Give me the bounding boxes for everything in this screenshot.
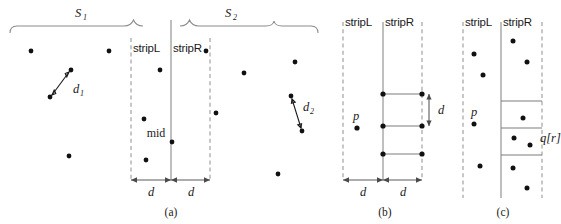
data-point: [242, 71, 247, 76]
data-point: [472, 52, 477, 57]
panel-b-d-left-label: d: [360, 185, 367, 199]
panel-b-d-right-label: d: [400, 185, 407, 199]
panel-b-d-left-measure: [343, 177, 383, 183]
panel-a-d1-label: d: [73, 82, 80, 96]
panel-b-stripL-label: stripL: [345, 16, 373, 28]
panel-a: S 1 S 2 stripL stripR mid: [10, 6, 318, 219]
data-point-p: [472, 122, 477, 127]
data-point: [512, 136, 517, 141]
label-s1-subscript: 1: [83, 13, 87, 22]
panel-b: stripL stripR p d: [343, 16, 445, 219]
panel-c-stripR-label: stripR: [503, 16, 532, 28]
label-s1: S: [75, 6, 82, 20]
data-point: [525, 186, 530, 191]
label-s2-subscript: 2: [233, 13, 237, 22]
data-point: [289, 94, 294, 99]
panel-a-caption: (a): [165, 206, 178, 219]
data-point: [29, 49, 34, 54]
data-point: [170, 140, 175, 145]
panel-c-q-label: q[r]: [540, 131, 561, 145]
panel-c-stripL-label: stripL: [465, 16, 493, 28]
data-point: [380, 91, 385, 96]
data-point: [144, 158, 149, 163]
panel-a-d1-subscript: 1: [80, 89, 84, 98]
data-point: [107, 49, 112, 54]
panel-a-d-left-label: d: [148, 185, 155, 199]
data-point: [521, 116, 526, 121]
panel-a-d2-arrow: [291, 99, 301, 128]
panel-a-d-left-measure: [131, 177, 171, 183]
panel-a-d-right-measure: [171, 177, 210, 183]
panel-b-p-label: p: [352, 109, 359, 123]
data-point-p: [354, 125, 359, 130]
figure-container: S 1 S 2 stripL stripR mid: [0, 0, 561, 224]
data-point: [419, 123, 424, 128]
data-point: [481, 73, 486, 78]
panel-b-d-right-measure: [383, 177, 422, 183]
brace-s2: [180, 20, 318, 33]
data-point: [419, 91, 424, 96]
panel-a-d2-label: d: [303, 100, 310, 114]
panel-a-stripR-label: stripR: [173, 42, 202, 54]
data-point: [511, 166, 516, 171]
data-point: [204, 49, 209, 54]
data-point: [67, 154, 72, 159]
panel-c-caption: (c): [497, 206, 510, 219]
data-point: [511, 39, 516, 44]
data-point-q: [528, 143, 533, 148]
panel-a-stripL-label: stripL: [133, 42, 161, 54]
data-point: [214, 111, 219, 116]
data-point: [478, 164, 483, 169]
data-point: [276, 172, 281, 177]
figure-svg: S 1 S 2 stripL stripR mid: [0, 0, 561, 224]
data-point: [300, 129, 305, 134]
panel-b-d-vertical-label: d: [438, 103, 445, 117]
label-s2: S: [225, 6, 232, 20]
data-point: [293, 60, 298, 65]
data-point: [380, 151, 385, 156]
panel-a-d1-arrow: [52, 72, 69, 95]
data-point: [419, 151, 424, 156]
panel-b-d-vertical-measure: [426, 94, 431, 126]
panel-c: stripL stripR p q[r] (c): [463, 16, 561, 219]
panel-b-stripR-label: stripR: [385, 16, 414, 28]
data-point: [525, 60, 530, 65]
data-point: [380, 123, 385, 128]
brace-s1: [10, 20, 143, 33]
panel-a-d2-subscript: 2: [310, 107, 314, 116]
panel-b-caption: (b): [378, 206, 392, 219]
panel-a-mid-label: mid: [147, 126, 166, 140]
data-point: [158, 68, 163, 73]
panel-c-p-label: p: [470, 105, 477, 119]
data-point: [142, 117, 147, 122]
panel-a-d-right-label: d: [188, 185, 195, 199]
